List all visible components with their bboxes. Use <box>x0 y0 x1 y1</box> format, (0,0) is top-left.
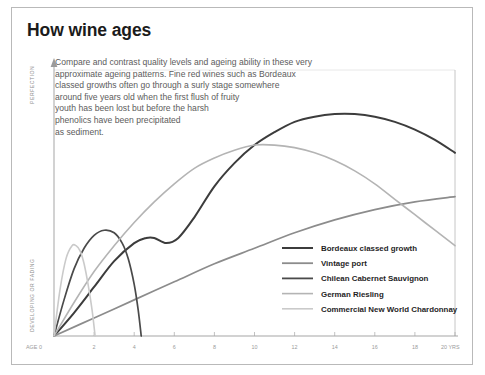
series-line <box>54 197 455 336</box>
wine-ageing-chart: PERFECTION DEVELOPING OR FADING 24681012… <box>0 0 485 375</box>
x-axis-start-label: AGE 0 <box>26 344 42 350</box>
x-tick-label: 10 <box>252 344 258 350</box>
y-axis-bottom-label: DEVELOPING OR FADING <box>29 258 35 332</box>
chart-legend: Bordeaux classed growthVintage portChile… <box>282 244 458 314</box>
x-tick-label: 18 <box>412 344 418 350</box>
x-axis: 24681012141618 AGE 0 20 YRS <box>26 332 460 350</box>
x-tick-label: 14 <box>332 344 338 350</box>
x-tick-label: 2 <box>93 344 96 350</box>
y-axis-arrow-icon <box>51 58 58 67</box>
x-axis-end-label: 20 YRS <box>441 344 460 350</box>
series-line <box>54 245 95 336</box>
chart-page: How wine ages Compare and contrast quali… <box>0 0 485 375</box>
x-tick-label: 12 <box>292 344 298 350</box>
x-tick-label: 4 <box>133 344 136 350</box>
legend-label: Bordeaux classed growth <box>321 244 417 253</box>
series-line <box>54 114 455 336</box>
legend-label: Vintage port <box>321 259 367 268</box>
legend-label: Chilean Cabernet Sauvignon <box>321 274 429 283</box>
legend-label: Commercial New World Chardonnay <box>321 305 458 314</box>
y-axis-top-label: PERFECTION <box>29 66 35 104</box>
x-tick-label: 16 <box>372 344 378 350</box>
x-tick-label: 8 <box>213 344 216 350</box>
series-curves <box>54 114 455 336</box>
legend-label: German Riesling <box>321 290 384 299</box>
x-axis-ticks: 24681012141618 <box>54 332 455 350</box>
y-axis: PERFECTION DEVELOPING OR FADING <box>29 58 57 336</box>
x-tick-label: 6 <box>173 344 176 350</box>
gridlines <box>54 70 455 336</box>
